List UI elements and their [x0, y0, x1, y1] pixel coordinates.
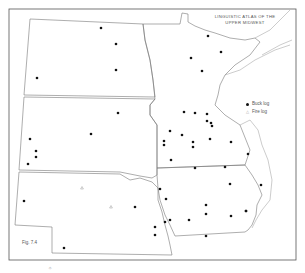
- buck-log-dot: [190, 57, 193, 60]
- buck-log-dot: [183, 111, 186, 114]
- state-nebraska: [15, 172, 172, 255]
- buck-log-dot: [245, 210, 248, 213]
- fire-log-triangle: [110, 206, 113, 209]
- buck-log-dot: [154, 234, 157, 237]
- buck-log-dot: [35, 156, 38, 159]
- buck-log-dot: [211, 125, 214, 128]
- buck-log-dot: [163, 144, 166, 147]
- buck-log-dot: [154, 226, 157, 229]
- dialect-map: [0, 0, 305, 273]
- buck-log-dot: [205, 204, 208, 207]
- buck-log-dot: [35, 150, 38, 153]
- state-south-dakota: [19, 97, 157, 178]
- buck-log-dot: [134, 206, 137, 209]
- buck-log-dot: [63, 247, 66, 250]
- buck-log-dot: [205, 235, 208, 238]
- buck-log-dot: [163, 140, 166, 143]
- buck-log-dot: [205, 213, 208, 216]
- buck-log-dot: [194, 167, 197, 170]
- legend: Buck log △ Fire log: [246, 100, 269, 116]
- legend-label: Fire log: [252, 108, 267, 116]
- legend-item-buck-log: Buck log: [246, 100, 269, 108]
- buck-log-dot: [192, 146, 195, 149]
- fire-log-points: [81, 187, 113, 209]
- buck-log-dot: [230, 215, 233, 218]
- buck-log-dot: [100, 27, 103, 30]
- title-line-2: UPPER MIDWEST: [210, 20, 280, 26]
- buck-log-dot: [206, 120, 209, 123]
- state-minnesota: [143, 13, 260, 168]
- buck-log-dot: [115, 69, 118, 72]
- buck-log-points: [23, 27, 263, 250]
- buck-log-dot: [229, 183, 232, 186]
- bottom-mark: ✧: [48, 265, 52, 271]
- buck-log-dot: [209, 138, 212, 141]
- buck-log-dot: [170, 159, 173, 162]
- buck-log-dot: [220, 51, 223, 54]
- buck-log-dot: [201, 70, 204, 73]
- buck-log-dot: [207, 35, 210, 38]
- map-title: LINGUISTIC ATLAS OF THE UPPER MIDWEST: [210, 14, 280, 26]
- state-north-dakota: [24, 19, 155, 97]
- buck-log-dot: [224, 166, 227, 169]
- fire-log-triangle: [81, 187, 84, 190]
- state-iowa: [157, 165, 262, 236]
- buck-log-dot: [165, 198, 168, 201]
- buck-log-dot: [29, 138, 32, 141]
- buck-log-dot: [164, 221, 167, 224]
- buck-log-dot: [117, 112, 120, 115]
- buck-log-dot: [210, 122, 213, 125]
- buck-log-dot: [230, 141, 233, 144]
- buck-log-dot: [206, 113, 209, 116]
- buck-log-dot: [159, 188, 162, 191]
- legend-label: Buck log: [252, 100, 269, 108]
- buck-log-dot: [23, 200, 26, 203]
- buck-log-dot: [169, 130, 172, 133]
- buck-log-dot: [169, 219, 172, 222]
- buck-log-dot: [260, 184, 263, 187]
- buck-log-dot: [188, 219, 191, 222]
- figure-label: Fig. 7.4: [22, 240, 37, 245]
- dot-icon: [246, 103, 249, 106]
- buck-log-dot: [36, 77, 39, 80]
- legend-item-fire-log: △ Fire log: [246, 108, 269, 116]
- buck-log-dot: [115, 43, 118, 46]
- buck-log-dot: [247, 153, 250, 156]
- buck-log-dot: [194, 112, 197, 115]
- triangle-icon: △: [246, 108, 249, 116]
- buck-log-dot: [192, 141, 195, 144]
- buck-log-dot: [181, 134, 184, 137]
- buck-log-dot: [27, 163, 30, 166]
- buck-log-dot: [90, 133, 93, 136]
